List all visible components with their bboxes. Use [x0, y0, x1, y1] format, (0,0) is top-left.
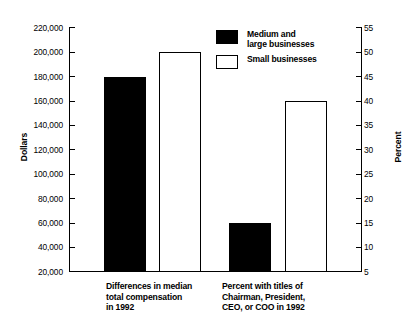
bar-group-0-series-1 [159, 52, 201, 272]
left-tick-mark [69, 101, 75, 102]
right-tick-label: 15 [364, 219, 373, 227]
right-tick-label: 30 [364, 146, 373, 154]
right-tick-mark [356, 149, 362, 150]
left-tick-label: 200,000 [33, 48, 63, 56]
right-tick-label: 20 [364, 195, 373, 203]
right-tick-label: 35 [364, 121, 373, 129]
left-tick-mark [69, 76, 75, 77]
left-tick-mark [69, 149, 75, 150]
left-tick-mark [69, 174, 75, 175]
category-label-1: Percent with titles of Chairman, Preside… [222, 281, 352, 313]
legend-swatch-icon-1 [216, 55, 238, 69]
left-tick-mark [69, 198, 75, 199]
left-axis-title: Dollars [19, 117, 29, 177]
right-tick-mark [356, 247, 362, 248]
bar-chart: 220,000200,000180,000160,000140,000120,0… [0, 0, 420, 327]
right-tick-mark [356, 198, 362, 199]
right-tick-label: 40 [364, 97, 373, 105]
bar-group-0-series-0 [104, 77, 146, 272]
left-tick-label: 140,000 [33, 121, 63, 129]
right-tick-mark [356, 125, 362, 126]
left-tick-mark [69, 247, 75, 248]
left-tick-label: 180,000 [33, 73, 63, 81]
legend-label-1: Small businesses [247, 54, 317, 64]
left-tick-label: 100,000 [33, 170, 63, 178]
left-tick-mark [69, 27, 75, 28]
legend-label-0: Medium and large businesses [247, 29, 314, 49]
chart-legend: Medium and large businessesSmall busines… [216, 29, 356, 74]
right-tick-mark [356, 76, 362, 77]
left-tick-label: 60,000 [38, 219, 63, 227]
left-tick-mark [69, 52, 75, 53]
category-label-0: Differences in median total compensation… [106, 281, 226, 313]
legend-item-0: Medium and large businesses [216, 29, 356, 49]
right-tick-label: 50 [364, 48, 373, 56]
right-tick-mark [356, 27, 362, 28]
right-tick-mark [356, 223, 362, 224]
bar-group-1-series-1 [285, 101, 327, 272]
legend-swatch-icon-0 [216, 30, 238, 44]
left-tick-label: 20,000 [38, 268, 63, 276]
legend-item-1: Small businesses [216, 54, 356, 69]
right-tick-mark [356, 52, 362, 53]
left-tick-label: 40,000 [38, 243, 63, 251]
left-tick-label: 160,000 [33, 97, 63, 105]
left-tick-mark [69, 223, 75, 224]
right-tick-label: 25 [364, 170, 373, 178]
right-axis-title: Percent [393, 117, 403, 177]
right-tick-label: 10 [364, 243, 373, 251]
left-tick-mark [69, 125, 75, 126]
left-tick-mark [69, 271, 75, 272]
right-tick-label: 45 [364, 73, 373, 81]
right-tick-mark [356, 174, 362, 175]
left-tick-label: 80,000 [38, 195, 63, 203]
right-tick-mark [356, 101, 362, 102]
bar-group-1-series-0 [229, 223, 271, 272]
left-tick-label: 220,000 [33, 24, 63, 32]
right-tick-label: 5 [364, 268, 369, 276]
right-tick-mark [356, 271, 362, 272]
left-tick-label: 120,000 [33, 146, 63, 154]
right-tick-label: 55 [364, 24, 373, 32]
